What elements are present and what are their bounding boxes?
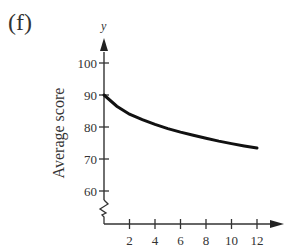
y-tick-label: 100 [78,56,98,71]
y-axis-letter: y [100,19,107,33]
chart: (f) y 60708090100 24681012 Average score [0,0,285,252]
x-axis: 24681012 [104,219,284,248]
y-tick-label: 90 [84,88,97,103]
x-tick-label: 10 [225,233,238,248]
x-tick-label: 6 [177,233,184,248]
x-axis-arrow-icon [270,220,284,228]
y-axis-break-icon [100,200,108,224]
y-axis-arrow-icon [100,38,108,51]
x-tick-label: 4 [152,233,159,248]
panel-label: (f) [8,9,32,35]
x-tick-label: 12 [251,233,264,248]
data-curve [104,95,257,148]
y-axis: y 60708090100 [78,19,110,224]
y-tick-label: 60 [84,184,97,199]
x-tick-label: 2 [126,233,133,248]
y-tick-label: 80 [84,120,97,135]
x-tick-label: 8 [203,233,210,248]
y-tick-label: 70 [84,152,97,167]
y-axis-label: Average score [50,88,68,179]
